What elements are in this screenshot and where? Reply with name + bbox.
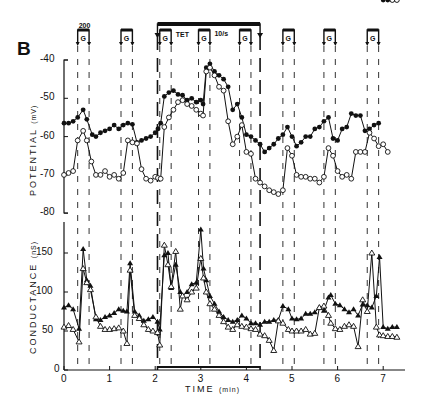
time-tick-label: 2 xyxy=(152,373,158,384)
data-point xyxy=(81,107,86,112)
data-point xyxy=(158,121,163,126)
data-point xyxy=(353,113,358,118)
data-point xyxy=(344,173,349,178)
arrow-icon xyxy=(238,42,253,46)
data-point xyxy=(112,173,117,178)
data-point xyxy=(289,316,295,321)
data-point xyxy=(81,128,86,133)
arrow-icon xyxy=(281,42,296,46)
data-point xyxy=(93,314,99,319)
time-tick-label: 7 xyxy=(380,373,386,384)
data-point xyxy=(258,180,263,185)
data-point xyxy=(328,320,334,325)
g-label: G xyxy=(242,35,247,42)
data-point xyxy=(367,130,372,135)
data-point xyxy=(180,93,185,98)
data-point xyxy=(217,73,222,78)
data-point xyxy=(294,144,299,149)
data-point xyxy=(125,138,130,143)
data-point xyxy=(355,344,361,349)
data-point xyxy=(235,102,240,107)
data-point xyxy=(148,178,153,183)
time-tick-label: 6 xyxy=(335,373,341,384)
data-point xyxy=(271,190,276,195)
data-point xyxy=(360,297,366,302)
data-point xyxy=(176,100,181,105)
data-point xyxy=(303,326,309,331)
data-point xyxy=(239,123,244,128)
data-point xyxy=(346,322,352,327)
data-point xyxy=(271,348,277,353)
data-point xyxy=(94,173,99,178)
data-point xyxy=(299,140,304,145)
data-point xyxy=(148,134,153,139)
data-point xyxy=(340,174,345,179)
g-label: G xyxy=(80,35,85,42)
data-point xyxy=(156,127,161,132)
data-point xyxy=(377,254,383,259)
data-point xyxy=(390,0,395,2)
data-point xyxy=(276,192,281,197)
data-point xyxy=(262,184,267,189)
data-point xyxy=(344,125,349,130)
data-point xyxy=(150,314,156,319)
data-point xyxy=(84,138,89,143)
time-axis-label: TIME (min) xyxy=(185,384,240,394)
data-point xyxy=(158,176,163,181)
arrow-icon xyxy=(76,42,91,46)
data-point xyxy=(349,111,354,116)
data-point xyxy=(280,188,285,193)
data-point xyxy=(325,312,331,317)
data-point xyxy=(127,260,133,265)
data-point xyxy=(112,123,117,128)
data-point xyxy=(135,141,140,146)
data-point xyxy=(144,176,149,181)
g-label: G xyxy=(124,35,129,42)
conductance-tick-label: 50 xyxy=(42,324,53,335)
data-point xyxy=(180,98,185,103)
data-point xyxy=(71,169,76,174)
time-tick-label: 1 xyxy=(107,373,113,384)
data-point xyxy=(381,142,386,147)
arrow-icon xyxy=(158,42,173,46)
data-point xyxy=(161,242,167,247)
data-point xyxy=(349,176,354,181)
data-point xyxy=(363,150,368,155)
data-point xyxy=(394,0,399,2)
data-point xyxy=(217,84,222,89)
data-point xyxy=(262,150,267,155)
data-line xyxy=(64,245,397,350)
data-point xyxy=(230,107,235,112)
data-point xyxy=(369,250,375,255)
data-point xyxy=(326,115,331,120)
data-point xyxy=(351,306,357,311)
data-point xyxy=(103,128,108,133)
data-point xyxy=(84,117,89,122)
tet-label: TET xyxy=(176,31,189,38)
conductance-tick-label: 0 xyxy=(54,363,60,374)
data-point xyxy=(166,115,171,120)
data-point xyxy=(94,134,99,139)
data-point xyxy=(249,134,254,139)
data-point xyxy=(290,153,295,158)
data-point xyxy=(376,144,381,149)
data-point xyxy=(76,339,82,344)
data-point xyxy=(335,138,340,143)
data-point xyxy=(299,174,304,179)
data-point xyxy=(221,88,226,93)
data-point xyxy=(312,330,318,335)
data-point xyxy=(130,140,135,145)
data-point xyxy=(124,340,130,345)
data-point xyxy=(201,102,206,107)
data-point xyxy=(66,323,72,328)
data-point xyxy=(258,142,263,147)
potential-tick-label: -40 xyxy=(40,53,54,64)
data-point xyxy=(121,123,126,128)
data-point xyxy=(385,150,390,155)
g-label: G xyxy=(201,35,206,42)
data-point xyxy=(98,173,103,178)
data-point xyxy=(168,284,174,289)
data-point xyxy=(103,169,108,174)
data-point xyxy=(290,134,295,139)
time-tick-label: 4 xyxy=(243,373,249,384)
